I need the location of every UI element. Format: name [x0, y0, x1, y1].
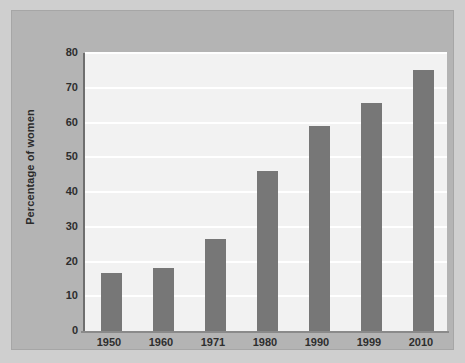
- y-tick-label: 40: [44, 186, 78, 197]
- gridline: [85, 52, 447, 54]
- plot-area: [83, 53, 447, 331]
- y-axis-label: Percentage of women: [24, 87, 36, 247]
- x-tick-label: 1960: [135, 336, 187, 348]
- y-tick-label: 70: [44, 82, 78, 93]
- bar-1999: [361, 103, 382, 331]
- plot-inner: [85, 53, 447, 331]
- y-tick-label: 60: [44, 117, 78, 128]
- gridline: [85, 87, 447, 89]
- chart-panel: Percentage of women 01020304050607080 19…: [11, 10, 454, 350]
- gridline: [85, 122, 447, 124]
- y-axis-ticks: 01020304050607080: [40, 11, 78, 351]
- x-axis-line: [81, 331, 449, 333]
- y-tick-label: 80: [44, 47, 78, 58]
- x-tick-label: 1999: [343, 336, 395, 348]
- y-tick-label: 10: [44, 290, 78, 301]
- bar-1980: [257, 171, 278, 331]
- bar-1950: [101, 273, 122, 331]
- x-tick-label: 1971: [187, 336, 239, 348]
- y-tick-label: 30: [44, 221, 78, 232]
- x-tick-label: 1950: [83, 336, 135, 348]
- gridline: [85, 156, 447, 158]
- x-tick-label: 2010: [395, 336, 447, 348]
- y-tick-label: 0: [44, 325, 78, 336]
- y-tick-label: 50: [44, 151, 78, 162]
- y-tick-label: 20: [44, 256, 78, 267]
- chart-figure: Percentage of women 01020304050607080 19…: [0, 0, 465, 363]
- bar-2010: [413, 70, 434, 331]
- x-tick-label: 1990: [291, 336, 343, 348]
- bar-1971: [205, 239, 226, 331]
- bar-1990: [309, 126, 330, 331]
- bar-1960: [153, 268, 174, 331]
- x-tick-label: 1980: [239, 336, 291, 348]
